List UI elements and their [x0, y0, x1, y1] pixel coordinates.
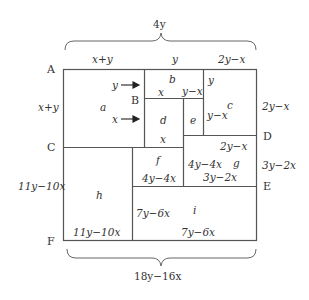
- region-d-bottom: x: [160, 134, 166, 145]
- region-c-left: y−x: [207, 110, 228, 121]
- top-brace: [65, 33, 256, 50]
- region-f-bottom: 4y−4x: [142, 173, 176, 184]
- region-i-left: 7y−6x: [136, 208, 170, 219]
- right-label-de: 3y−2x: [262, 160, 296, 171]
- region-a-label: a: [100, 102, 106, 113]
- region-b-bottom-left: x: [158, 87, 164, 98]
- point-E: E: [263, 181, 271, 192]
- right-label-ad: 2y−x: [262, 101, 289, 112]
- region-g-label: g: [233, 158, 240, 169]
- region-i-bottom: 7y−6x: [181, 227, 215, 238]
- region-d-label: d: [160, 115, 167, 126]
- region-h-label: h: [96, 190, 103, 201]
- region-e-label: e: [190, 115, 196, 126]
- point-F: F: [47, 236, 55, 247]
- region-g-top: 2y−x: [220, 141, 247, 152]
- bottom-brace: [67, 249, 256, 266]
- top-label-left: x+y: [92, 54, 113, 65]
- bottom-brace-label: 18y−16x: [134, 271, 181, 282]
- region-c-top: y: [208, 75, 214, 86]
- region-g-left: 4y−4x: [188, 159, 222, 170]
- region-g-bottom: 3y−2x: [203, 172, 237, 183]
- top-label-right: 2y−x: [218, 54, 245, 65]
- top-brace-label: 4y: [153, 19, 166, 30]
- left-label-ac: x+y: [38, 102, 59, 113]
- point-B: B: [131, 95, 139, 106]
- region-i-label: i: [193, 205, 196, 216]
- region-a-arrow-top-label: y: [112, 80, 118, 91]
- region-a-arrow-bottom-label: x: [112, 114, 118, 125]
- region-h-bottom: 11y−10x: [73, 227, 120, 238]
- point-D: D: [263, 131, 272, 142]
- region-f-label: f: [156, 155, 160, 166]
- point-A: A: [47, 64, 55, 75]
- region-b-label: b: [169, 74, 176, 85]
- top-label-middle: y: [172, 54, 178, 65]
- point-C: C: [47, 142, 55, 153]
- region-b-bottom-right: y−x: [182, 86, 203, 97]
- left-label-cf: 11y−10x: [18, 181, 65, 192]
